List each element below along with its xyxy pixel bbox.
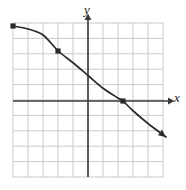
plotted-curve: [13, 26, 166, 137]
x-axis-label: x: [173, 90, 180, 105]
curve-path: [13, 26, 166, 137]
data-point-marker: [10, 23, 15, 28]
graph-canvas: x y: [0, 0, 186, 190]
data-point-marker: [55, 48, 60, 53]
y-axis-label: y: [82, 2, 90, 17]
coordinate-plane-figure: x y: [0, 0, 186, 190]
data-point-marker: [120, 98, 125, 103]
